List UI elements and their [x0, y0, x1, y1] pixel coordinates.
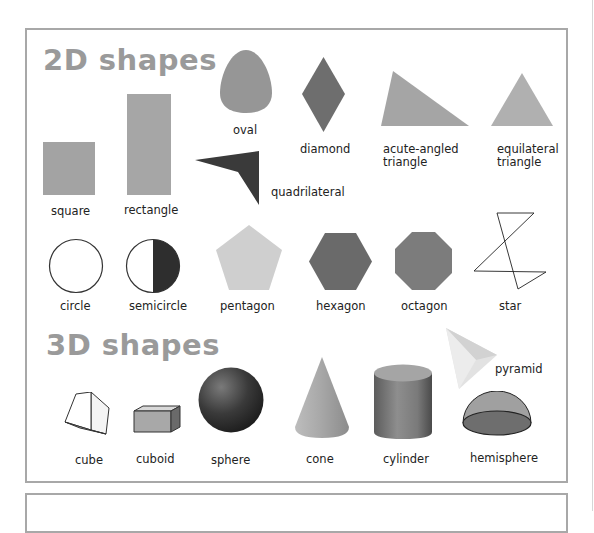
pentagon-shape [216, 225, 282, 290]
cone-shape [294, 357, 350, 439]
cylinder-shape [373, 364, 433, 440]
cube-shape [64, 392, 112, 436]
equilateral-triangle-shape [491, 73, 553, 126]
circle-shape [48, 238, 104, 294]
page-edge-divider [592, 0, 593, 511]
label-diamond: diamond [300, 142, 350, 156]
semicircle-shape [125, 238, 181, 294]
label-semicircle: semicircle [129, 299, 187, 313]
label-cube: cube [75, 453, 103, 467]
hexagon-shape [309, 233, 372, 290]
label-quadrilateral: quadrilateral [271, 185, 345, 199]
label-circle: circle [60, 299, 91, 313]
sphere-shape [198, 367, 264, 433]
pyramid-shape [446, 328, 498, 390]
label-octagon: octagon [401, 299, 448, 313]
star-shape [473, 212, 547, 290]
label-sphere: sphere [211, 453, 250, 467]
label-pyramid: pyramid [495, 362, 543, 376]
label-hemisphere: hemisphere [470, 451, 538, 465]
label-cone: cone [306, 452, 334, 466]
next-panel [25, 493, 568, 533]
label-equilateral-triangle-line1: equilateral [497, 142, 559, 156]
heading-3d-shapes: 3D shapes [46, 331, 220, 360]
acute-angled-triangle-shape [381, 71, 469, 127]
octagon-shape [395, 232, 452, 290]
cuboid-shape [133, 405, 181, 433]
quadrilateral-shape [195, 150, 261, 206]
rectangle-shape [127, 94, 171, 195]
label-oval: oval [233, 123, 257, 137]
label-square: square [51, 204, 90, 218]
square-shape [43, 142, 95, 195]
label-equilateral-triangle-line2: triangle [497, 155, 541, 169]
oval-shape [219, 49, 273, 114]
label-pentagon: pentagon [220, 299, 275, 313]
heading-2d-shapes: 2D shapes [43, 46, 217, 75]
label-star: star [499, 299, 521, 313]
label-acute-angled-triangle-line2: triangle [383, 155, 427, 169]
label-acute-angled-triangle-line1: acute-angled [383, 142, 459, 156]
label-cuboid: cuboid [136, 452, 174, 466]
label-rectangle: rectangle [124, 203, 178, 217]
label-cylinder: cylinder [383, 452, 429, 466]
hemisphere-shape [462, 391, 532, 437]
label-hexagon: hexagon [316, 299, 366, 313]
diamond-shape [302, 57, 345, 132]
